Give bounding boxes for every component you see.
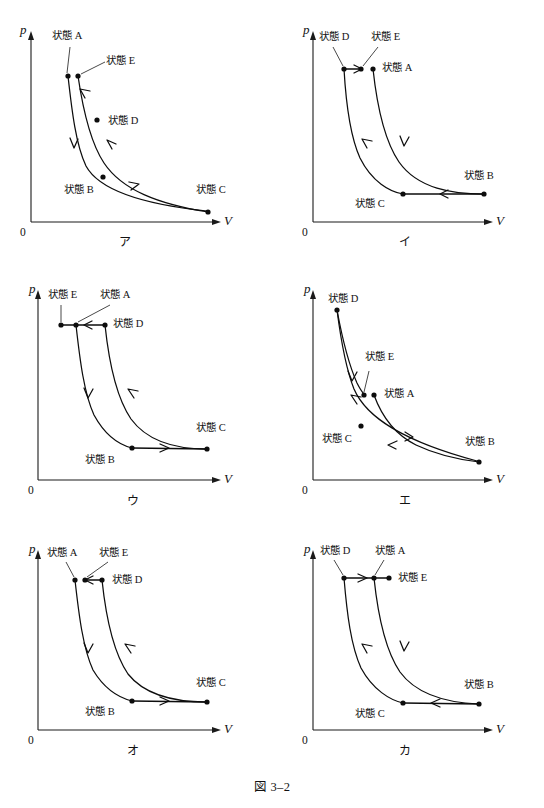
dot-state-c [400, 700, 405, 705]
label-state-b: 状態 B [464, 679, 494, 691]
label-state-d: 状態 D [113, 318, 143, 330]
label-state-c: 状態 C [196, 184, 226, 196]
dot-state-a [65, 73, 70, 78]
dot-state-a [72, 577, 77, 582]
isotherm-cd-curve [344, 69, 403, 194]
panel-o-pv-diagram: p V 0 状態 A 状態 E 状態 D 状態 B 状態 C オ [0, 530, 272, 795]
isotherm-ab-curve [374, 395, 479, 462]
label-state-a: 状態 A [384, 388, 414, 400]
label-state-e: 状態 E [365, 351, 394, 363]
label-state-e: 状態 E [106, 55, 135, 67]
figure-caption: 図 3–2 [0, 776, 544, 795]
panel-a-pv-diagram: p V 0 状態 A 状態 E 状態 D 状態 B 状態 C ア [0, 0, 272, 265]
segment-bc [132, 444, 207, 452]
origin-label: 0 [28, 484, 34, 496]
dot-state-d [99, 577, 104, 582]
dot-state-b [129, 698, 134, 703]
dot-state-d [341, 66, 346, 71]
label-state-b: 状態 B [64, 184, 94, 196]
dot-state-b [481, 191, 486, 196]
dot-state-d [334, 307, 339, 312]
label-state-c: 状態 C [355, 708, 385, 720]
label-state-a: 状態 A [52, 30, 82, 42]
label-state-b: 状態 B [85, 454, 115, 466]
dot-state-a [370, 66, 375, 71]
isotherm-cd-curve [105, 325, 207, 449]
label-state-e: 状態 E [371, 31, 400, 43]
panel-i-pv-diagram: p V 0 状態 D 状態 E 状態 A 状態 B 状態 C イ [272, 0, 544, 265]
y-axis-label: p [20, 22, 27, 38]
x-axis-label: V [496, 471, 504, 487]
label-state-c: 状態 C [196, 677, 226, 689]
x-axis-label: V [496, 721, 504, 737]
dot-state-b [100, 174, 105, 179]
x-axis-label: V [224, 471, 232, 487]
dot-state-c [205, 209, 210, 214]
panel-e-pv-diagram: p V 0 状態 D 状態 E 状態 A 状態 C 状態 B エ [272, 265, 544, 530]
direction-arrowheads [362, 641, 409, 653]
x-axis-label: V [224, 721, 232, 737]
direction-arrowheads [84, 643, 135, 653]
panel-letter-o: オ [113, 741, 153, 758]
direction-arrowheads [362, 136, 409, 148]
label-leaders [334, 560, 384, 575]
label-state-e: 状態 E [99, 547, 128, 559]
dot-state-c [358, 423, 363, 428]
label-leaders [66, 562, 108, 577]
panel-letter-u: ウ [113, 491, 153, 508]
y-axis-label: p [29, 541, 36, 557]
figure-3-2: p V 0 状態 A 状態 E 状態 D 状態 B 状態 C ア [0, 0, 544, 808]
label-state-d: 状態 D [328, 293, 358, 305]
isotherm-cd-curve [344, 578, 403, 703]
isotherm-cde-curve [78, 76, 208, 212]
label-state-e: 状態 E [398, 572, 427, 584]
label-state-d: 状態 D [112, 574, 142, 586]
label-state-a: 状態 A [100, 289, 130, 301]
label-state-d: 状態 D [320, 545, 350, 557]
label-state-a: 状態 A [47, 547, 77, 559]
y-axis-label: p [304, 541, 311, 557]
dot-state-e [82, 577, 87, 582]
segment-da [344, 574, 389, 582]
label-leaders [364, 371, 369, 392]
label-state-c: 状態 C [322, 433, 352, 445]
dot-state-e [75, 73, 80, 78]
panel-ka-pv-diagram: p V 0 状態 D 状態 A 状態 E 状態 B 状態 C カ [272, 530, 544, 795]
axes [310, 290, 493, 483]
panel-letter-i: イ [385, 232, 425, 249]
label-state-e: 状態 E [48, 289, 77, 301]
x-axis-label: V [224, 213, 232, 229]
segment-de [61, 321, 105, 329]
isotherm-ab-curve [76, 325, 132, 448]
dot-state-e [361, 392, 366, 397]
dot-state-a [371, 392, 376, 397]
dot-state-e [58, 322, 63, 327]
dot-state-d [341, 575, 346, 580]
dot-state-d [94, 117, 99, 122]
dot-state-a [371, 575, 376, 580]
dot-state-e [358, 66, 363, 71]
dot-state-d [102, 322, 107, 327]
panel-letter-ka: カ [385, 741, 425, 758]
label-state-d: 状態 D [319, 31, 349, 43]
isotherm-de-curve [337, 310, 364, 394]
label-leaders [61, 305, 110, 322]
direction-arrowheads [70, 89, 139, 190]
label-leaders [333, 47, 378, 66]
origin-label: 0 [28, 734, 34, 746]
label-state-b: 状態 B [85, 706, 115, 718]
label-state-a: 状態 A [382, 62, 412, 74]
y-axis-label: p [29, 281, 36, 297]
dot-state-c [400, 191, 405, 196]
isotherm-cd-curve [102, 580, 207, 702]
isotherm-ab-curve [75, 580, 132, 701]
origin-label: 0 [302, 226, 308, 238]
label-state-b: 状態 B [465, 436, 495, 448]
dot-state-b [476, 701, 481, 706]
label-state-c: 状態 C [196, 422, 226, 434]
panel-u-pv-diagram: p V 0 状態 E 状態 A 状態 D 状態 B 状態 C ウ [0, 265, 272, 530]
origin-label: 0 [20, 226, 26, 238]
dot-state-e [386, 575, 391, 580]
dot-state-c [204, 446, 209, 451]
segment-bc [403, 190, 484, 198]
